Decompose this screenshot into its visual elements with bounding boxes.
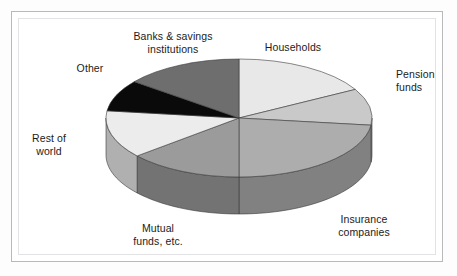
slice-label-pension-funds: Pension funds — [396, 68, 454, 93]
pie-slices-group — [106, 59, 372, 214]
slice-label-insurance-companies: Insurance companies — [318, 213, 410, 238]
pie-top-faces — [106, 59, 372, 177]
slice-label-banks-savings-institutions: Banks & savings institutions — [105, 30, 241, 55]
slice-label-households: Households — [248, 41, 338, 54]
slice-label-mutual-funds: Mutual funds, etc. — [112, 222, 204, 247]
slice-label-rest-of-world: Rest of world — [18, 132, 80, 157]
chart-figure: Banks & savings institutions Households … — [0, 0, 457, 276]
slice-label-other: Other — [66, 62, 114, 75]
